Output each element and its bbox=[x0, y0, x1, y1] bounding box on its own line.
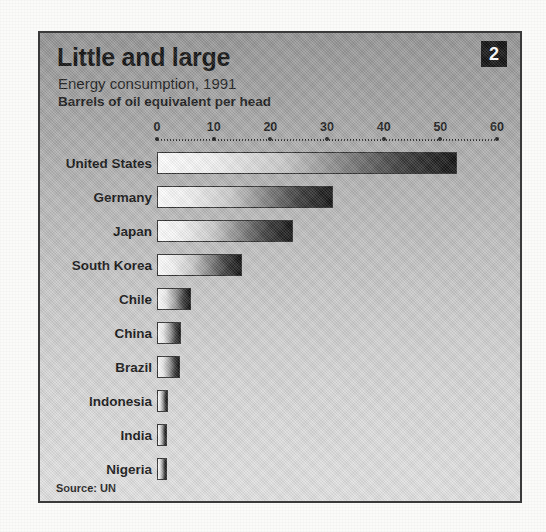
plot-area: 0102030405060 United StatesGermanyJapanS… bbox=[40, 33, 520, 501]
bar bbox=[157, 458, 167, 480]
bar-row: United States bbox=[40, 152, 520, 174]
bar-category-label: United States bbox=[66, 156, 152, 171]
bar-category-label: Nigeria bbox=[106, 462, 152, 477]
x-axis-tick-label: 10 bbox=[207, 120, 221, 134]
bar bbox=[157, 356, 180, 378]
bar-row: South Korea bbox=[40, 254, 520, 276]
x-axis-tick-label: 20 bbox=[263, 120, 277, 134]
bar-category-label: Brazil bbox=[115, 360, 152, 375]
bar-row: Japan bbox=[40, 220, 520, 242]
bar-category-label: China bbox=[114, 326, 152, 341]
bar-row: Nigeria bbox=[40, 458, 520, 480]
x-axis-dotted-line bbox=[157, 139, 497, 141]
bar-category-label: India bbox=[120, 428, 152, 443]
x-axis-tick-label: 0 bbox=[154, 120, 161, 134]
x-axis-tick-label: 40 bbox=[377, 120, 391, 134]
bar bbox=[157, 220, 293, 242]
bar-category-label: Indonesia bbox=[89, 394, 152, 409]
bar-row: India bbox=[40, 424, 520, 446]
bar-row: Indonesia bbox=[40, 390, 520, 412]
figure-page: Little and large Energy consumption, 199… bbox=[0, 0, 546, 532]
bar-row: China bbox=[40, 322, 520, 344]
bar bbox=[157, 288, 191, 310]
bar bbox=[157, 390, 168, 412]
x-axis-tick-label: 30 bbox=[320, 120, 334, 134]
bar-category-label: Japan bbox=[113, 224, 152, 239]
x-axis-tick-label: 60 bbox=[490, 120, 504, 134]
bar-row: Germany bbox=[40, 186, 520, 208]
bar-category-label: Germany bbox=[93, 190, 152, 205]
bar bbox=[157, 254, 242, 276]
bar-row: Brazil bbox=[40, 356, 520, 378]
x-axis-tick-label: 50 bbox=[433, 120, 447, 134]
bar bbox=[157, 186, 333, 208]
bar bbox=[157, 152, 457, 174]
figure-panel: Little and large Energy consumption, 199… bbox=[38, 31, 522, 503]
bar bbox=[157, 424, 167, 446]
bar-category-label: South Korea bbox=[72, 258, 152, 273]
bar bbox=[157, 322, 181, 344]
bar-category-label: Chile bbox=[119, 292, 152, 307]
bar-row: Chile bbox=[40, 288, 520, 310]
source-note: Source: UN bbox=[56, 482, 116, 494]
